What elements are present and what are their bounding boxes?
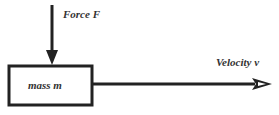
force-label: Force F	[63, 8, 100, 20]
force-arrowhead-icon	[46, 50, 58, 65]
mass-label: mass m	[28, 79, 62, 91]
velocity-label: Velocity v	[216, 56, 259, 68]
